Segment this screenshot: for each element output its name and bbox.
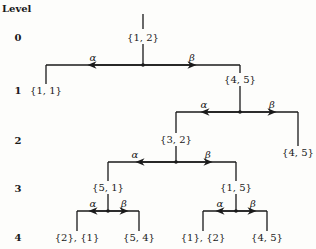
level-1-label: 1 [15, 85, 22, 96]
node-l4-a: {2}, {1} [54, 232, 101, 243]
edge-alpha-label: α [132, 149, 139, 160]
edge-beta-label: β [250, 198, 256, 209]
node-l4-c: {1}, {2} [180, 232, 227, 243]
node-l1-left: {1, 1} [29, 85, 63, 96]
level-2-label: 2 [15, 135, 22, 146]
edge-beta-label: β [269, 99, 275, 110]
level-0-label: 0 [15, 32, 22, 43]
node-l3-left: {5, 1} [91, 182, 125, 193]
level-header: Level [2, 3, 31, 14]
edge-beta-label: β [189, 52, 195, 63]
edge-alpha-label: α [90, 198, 97, 209]
node-l1-right: {4, 5} [223, 74, 257, 85]
node-root: {1, 2} [126, 32, 160, 43]
edge-alpha-label: α [90, 52, 97, 63]
edge-alpha-label: α [217, 198, 224, 209]
node-l2-left: {3, 2} [159, 134, 193, 145]
node-l3-right: {1, 5} [219, 182, 253, 193]
level-4-label: 4 [15, 232, 22, 243]
edge-beta-label: β [121, 198, 127, 209]
edge-alpha-label: α [201, 99, 208, 110]
node-l2-right: {4, 5} [281, 147, 315, 158]
edge-beta-label: β [205, 149, 211, 160]
level-3-label: 3 [15, 183, 22, 194]
node-l4-b: {5, 4} [122, 232, 156, 243]
node-l4-d: {4, 5} [250, 232, 284, 243]
